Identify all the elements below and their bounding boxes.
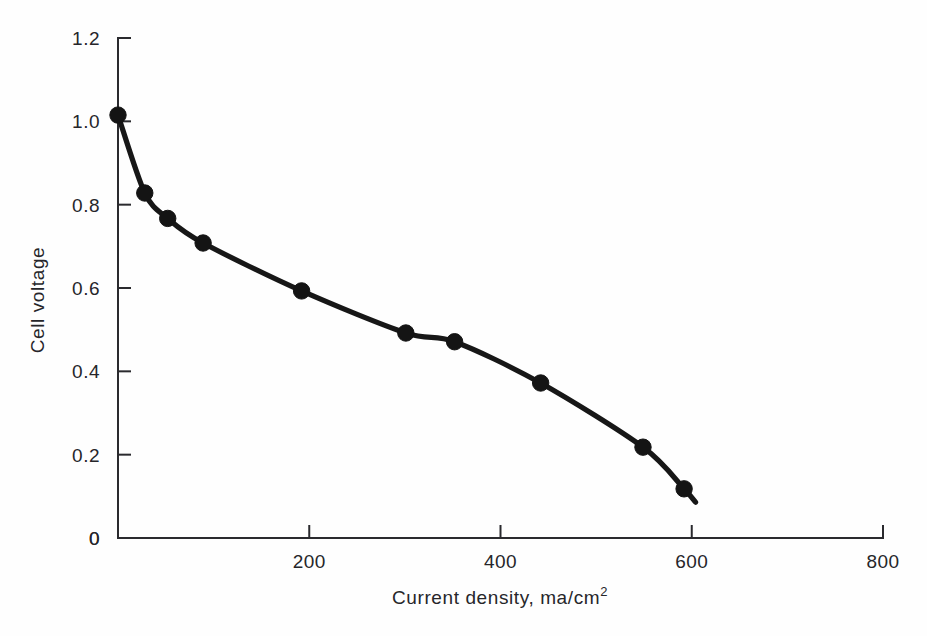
y-tick-label: 1.2 — [72, 28, 100, 49]
data-point-marker — [398, 325, 414, 341]
x-tick-label: 600 — [675, 551, 708, 572]
y-tick-label: 0.8 — [72, 195, 100, 216]
polarization-curve-chart: 00.20.40.60.81.01.2 0200400600800 Curren… — [0, 0, 927, 636]
data-point-marker — [676, 481, 692, 497]
data-point-marker — [635, 439, 651, 455]
data-series-markers — [110, 107, 693, 497]
x-tick-label: 400 — [484, 551, 517, 572]
data-point-marker — [160, 210, 176, 226]
x-axis-tick-labels: 0200400600800 — [89, 528, 900, 572]
x-axis-title-exponent: 2 — [600, 584, 608, 599]
axes-group — [118, 38, 883, 538]
data-point-marker — [195, 235, 211, 251]
x-axis-ticks — [309, 525, 692, 538]
y-tick-label: 0.2 — [72, 445, 100, 466]
x-tick-label: 0 — [89, 528, 100, 549]
chart-figure: 00.20.40.60.81.01.2 0200400600800 Curren… — [0, 0, 927, 636]
data-series-line — [118, 115, 696, 502]
y-tick-label: 0.6 — [72, 278, 100, 299]
y-tick-label: 0.4 — [72, 361, 100, 382]
y-axis-ticks — [118, 121, 131, 454]
y-tick-label: 1.0 — [72, 111, 100, 132]
x-axis-title: Current density, ma/cm2 — [392, 584, 608, 608]
x-tick-label: 800 — [866, 551, 899, 572]
data-point-marker — [446, 334, 462, 350]
x-tick-label: 200 — [293, 551, 326, 572]
x-axis-title-base: Current density, ma/cm — [392, 587, 600, 608]
data-point-marker — [110, 107, 126, 123]
data-point-marker — [293, 283, 309, 299]
y-axis-title: Cell voltage — [27, 247, 48, 353]
y-axis-tick-labels: 00.20.40.60.81.01.2 — [72, 28, 100, 549]
data-point-marker — [137, 185, 153, 201]
data-point-marker — [532, 375, 548, 391]
